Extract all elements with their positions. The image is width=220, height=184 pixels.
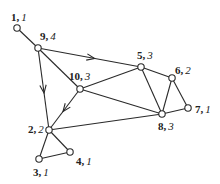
- weighted-graph-diagram: 1,19,410,35,36,27,18,32,23,14,1: [0, 0, 220, 184]
- node-1: [14, 25, 20, 31]
- node-weight: 2: [185, 64, 191, 76]
- node-weight: 4: [50, 30, 56, 42]
- node-label-8: 8,3: [158, 120, 174, 132]
- node-weight: 2: [38, 123, 44, 135]
- node-label-4: 4,1: [76, 155, 92, 167]
- node-10: [77, 86, 83, 92]
- node-5: [138, 64, 144, 70]
- nodes-layer: [14, 25, 191, 162]
- node-2: [46, 127, 52, 133]
- node-label-5: 5,3: [137, 49, 153, 61]
- node-weight: 3: [167, 120, 174, 132]
- node-weight: 1: [205, 103, 211, 115]
- node-weight: 3: [84, 70, 91, 82]
- node-id: 7,: [195, 103, 204, 115]
- edge-5-8: [141, 67, 162, 114]
- node-id: 8,: [158, 120, 167, 132]
- node-id: 4,: [76, 155, 85, 167]
- edge-9-2: [38, 48, 49, 130]
- node-label-7: 7,1: [195, 103, 211, 115]
- node-label-6: 6,2: [175, 64, 191, 76]
- edge-3-4: [39, 152, 70, 159]
- node-weight: 1: [21, 11, 27, 23]
- node-label-2: 2,2: [28, 123, 44, 135]
- node-8: [159, 111, 165, 117]
- edges-layer: [17, 28, 188, 159]
- node-label-10: 10,3: [69, 70, 91, 82]
- node-id: 5,: [137, 49, 146, 61]
- edge-6-7: [172, 78, 188, 108]
- arrows-layer: [40, 54, 95, 112]
- edge-9-5: [38, 48, 141, 67]
- edge-1-9: [17, 28, 38, 48]
- edge-10-8: [80, 89, 162, 114]
- node-id: 3,: [33, 166, 42, 178]
- edge-10-2: [49, 89, 80, 130]
- node-weight: 3: [146, 49, 153, 61]
- node-label-3: 3,1: [33, 166, 49, 178]
- node-weight: 1: [43, 166, 49, 178]
- node-id: 10,: [69, 70, 83, 82]
- node-4: [67, 149, 73, 155]
- node-weight: 1: [86, 155, 92, 167]
- node-id: 9,: [40, 30, 49, 42]
- edge-2-8: [49, 114, 162, 130]
- node-label-1: 1,1: [11, 11, 27, 23]
- node-id: 6,: [175, 64, 184, 76]
- node-9: [35, 45, 41, 51]
- edge-8-7: [162, 108, 188, 114]
- edge-6-8: [162, 78, 172, 114]
- node-id: 2,: [28, 123, 37, 135]
- edge-2-4: [49, 130, 70, 152]
- node-3: [36, 156, 42, 162]
- node-7: [185, 105, 191, 111]
- node-label-9: 9,4: [40, 30, 56, 42]
- node-id: 1,: [11, 11, 20, 23]
